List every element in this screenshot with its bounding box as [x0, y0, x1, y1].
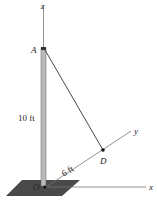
point-a-label: A — [30, 45, 37, 55]
pole-height-label: 10 ft — [18, 113, 35, 123]
point-d-label: D — [99, 156, 107, 166]
y-axis — [46, 131, 131, 187]
pole — [41, 48, 46, 186]
pole-cable-diagram: z y x A D O 10 ft 6 ft — [0, 0, 157, 204]
cable-ad — [45, 50, 103, 150]
point-o-label: O — [33, 182, 40, 192]
point-o-marker — [44, 186, 47, 189]
z-axis-label: z — [40, 1, 45, 11]
point-d-marker — [101, 148, 105, 152]
pole-cap — [41, 47, 46, 50]
x-axis-label: x — [148, 182, 153, 192]
y-axis-label: y — [133, 126, 138, 136]
